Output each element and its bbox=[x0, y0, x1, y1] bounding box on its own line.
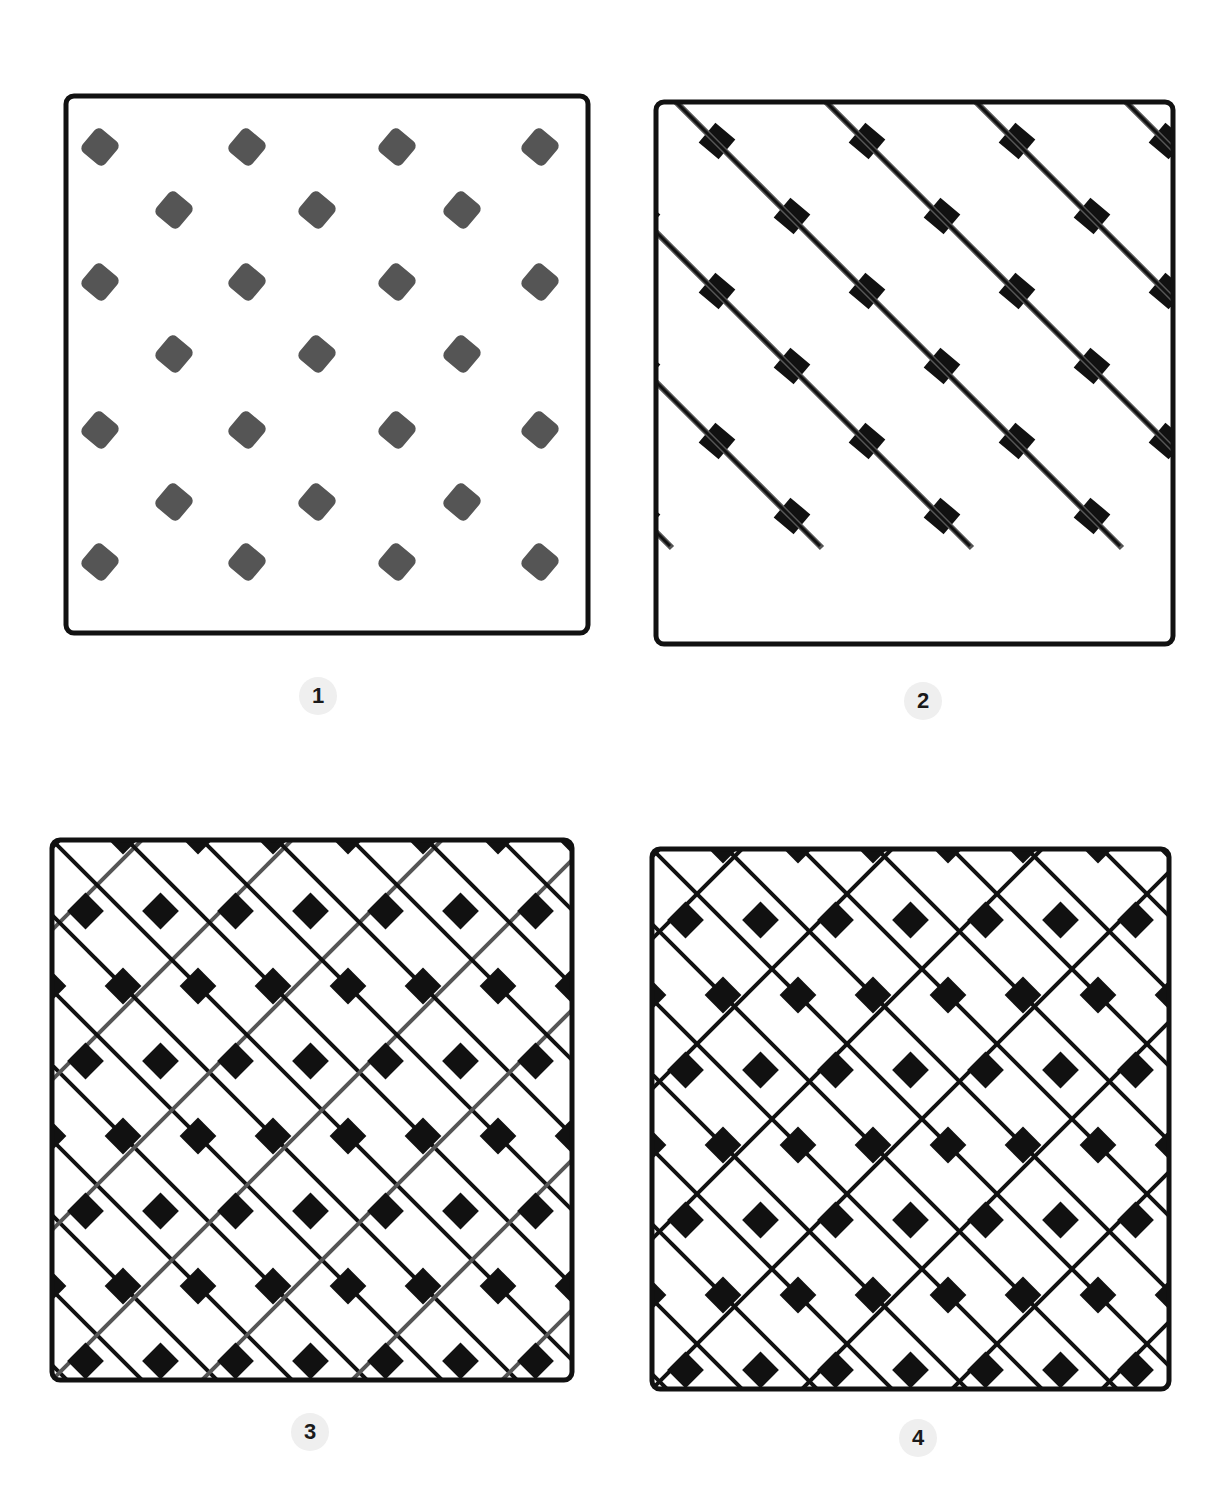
step-4-panel bbox=[648, 845, 1173, 1393]
step-4-badge: 4 bbox=[899, 1419, 937, 1457]
step-2-drawing bbox=[652, 98, 1177, 648]
step-1-panel bbox=[62, 92, 592, 637]
step-3-panel bbox=[48, 836, 576, 1384]
step-1-drawing bbox=[62, 92, 592, 637]
step-4-drawing bbox=[648, 845, 1173, 1393]
step-3-drawing bbox=[48, 836, 576, 1384]
step-1-badge: 1 bbox=[299, 677, 337, 715]
step-3-badge: 3 bbox=[291, 1413, 329, 1451]
step-2-panel bbox=[652, 98, 1177, 648]
step-2-badge: 2 bbox=[904, 682, 942, 720]
